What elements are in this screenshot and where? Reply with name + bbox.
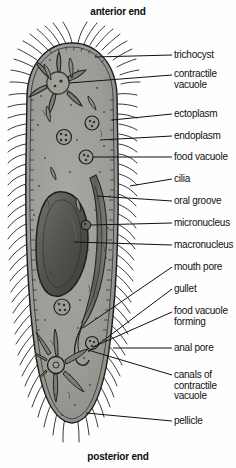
label-gullet: gullet	[174, 284, 196, 295]
leader-ectoplasm	[112, 114, 172, 120]
label-endoplasm: endoplasm	[174, 131, 221, 142]
label-oral-groove: oral groove	[174, 196, 221, 207]
label-trichocyst: trichocyst	[174, 50, 214, 61]
label-food-vacuole: food vacuole	[174, 152, 228, 163]
leader-pellicle	[86, 413, 172, 421]
label-ectoplasm: ectoplasm	[174, 109, 217, 120]
label-anal-pore: anal pore	[174, 343, 213, 354]
label-cilia: cilia	[174, 174, 190, 185]
label-canals-of-contractile-vacuole: canals of contractile vacuole	[174, 370, 217, 402]
label-food-vacuole-forming: food vacuole forming	[174, 306, 228, 327]
label-contractile-vacuole: contractile vacuole	[174, 69, 217, 90]
label-macronucleus: macronucleus	[174, 240, 233, 251]
label-micronucleus: micronucleus	[174, 218, 230, 229]
posterior-contractile-vacuole	[48, 357, 65, 374]
label-mouth-pore: mouth pore	[174, 262, 222, 273]
leader-cilia	[130, 179, 172, 186]
paramecium-diagram: anterior end	[0, 0, 236, 468]
leader-trichocyst	[95, 55, 172, 57]
posterior-end-title: posterior end	[0, 451, 236, 462]
label-pellicle: pellicle	[174, 416, 203, 427]
